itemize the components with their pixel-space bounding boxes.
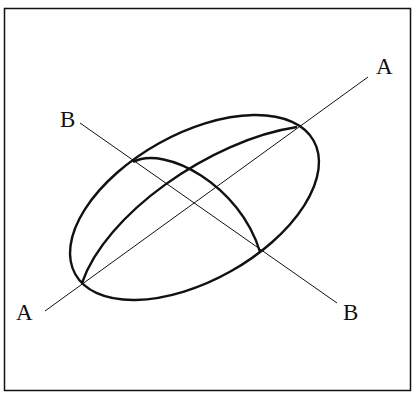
diagram-frame: [5, 9, 411, 391]
diagram-canvas: A A B B: [0, 0, 414, 394]
label-a-top: A: [376, 54, 393, 79]
label-b-top: B: [60, 107, 75, 132]
label-a-bottom: A: [16, 300, 33, 325]
label-b-bottom: B: [343, 300, 358, 325]
